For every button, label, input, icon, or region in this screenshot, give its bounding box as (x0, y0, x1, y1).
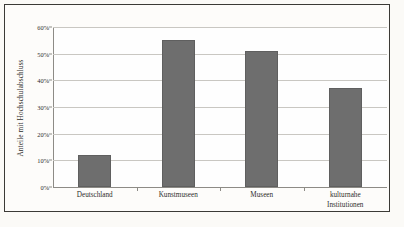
bar (329, 88, 362, 187)
x-label-line: kulturnahe (304, 191, 388, 201)
bar (162, 40, 195, 187)
y-tick-label-20pct: 20% (5, 130, 49, 137)
gridline-40pct (53, 80, 387, 81)
x-axis-label: Kunstmuseen (137, 191, 221, 201)
y-tick-mark-0pct (49, 187, 52, 188)
y-tick-mark-50pct (49, 53, 52, 54)
x-axis-category-labels: DeutschlandKunstmuseenMuseenkulturnaheIn… (53, 191, 387, 217)
y-tick-mark-20pct (49, 133, 52, 134)
bar (78, 155, 111, 187)
y-tick-label-0pct: 0% (5, 184, 49, 191)
x-label-line: Kunstmuseen (137, 191, 221, 201)
y-tick-mark-60pct (49, 27, 52, 28)
bar (245, 51, 278, 187)
plot-area (53, 27, 387, 187)
y-tick-label-10pct: 10% (5, 157, 49, 164)
y-tick-label-60pct: 60% (5, 24, 49, 31)
chart-figure: Anteile mit Hochschulabschluss 0%10%20%3… (0, 0, 404, 227)
x-label-line: Deutschland (53, 191, 137, 201)
chart-frame: Anteile mit Hochschulabschluss 0%10%20%3… (4, 4, 390, 212)
gridline-50pct (53, 54, 387, 55)
y-tick-mark-30pct (49, 107, 52, 108)
y-tick-label-50pct: 50% (5, 50, 49, 57)
y-axis-tick-labels: 0%10%20%30%40%50%60% (5, 27, 49, 187)
x-label-line: Institutionen (304, 201, 388, 211)
y-tick-label-30pct: 30% (5, 104, 49, 111)
x-axis-label: Deutschland (53, 191, 137, 201)
x-axis-label: kulturnaheInstitutionen (304, 191, 388, 210)
gridline-60pct (53, 27, 387, 28)
x-axis-label: Museen (220, 191, 304, 201)
x-label-line: Museen (220, 191, 304, 201)
y-tick-mark-10pct (49, 160, 52, 161)
y-tick-mark-40pct (49, 80, 52, 81)
y-tick-label-40pct: 40% (5, 77, 49, 84)
